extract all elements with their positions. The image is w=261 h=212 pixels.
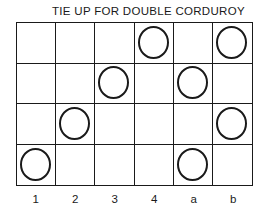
grid-cell [213,64,252,105]
grid-cell [56,64,95,105]
diagram-title: TIE UP FOR DOUBLE CORDUROY [52,5,245,17]
circle-icon [20,148,51,181]
column-labels: 1234ab [16,193,253,205]
grid-cell [56,145,95,186]
grid-cell [95,64,134,105]
grid-cell [56,23,95,64]
tie-up-grid [16,22,253,186]
column-label: 2 [56,193,96,205]
column-label: 1 [16,193,56,205]
grid-cell [95,104,134,145]
column-label: a [174,193,214,205]
grid-cell [174,104,213,145]
grid-cell [213,145,252,186]
grid-cell [174,23,213,64]
circle-icon [138,26,169,59]
grid-cell [135,104,174,145]
grid-cell [17,145,56,186]
column-label: 4 [135,193,175,205]
grid-cell [17,104,56,145]
circle-icon [216,26,247,59]
grid-cell [213,23,252,64]
circle-icon [59,107,90,140]
column-label: b [214,193,254,205]
grid-cell [95,23,134,64]
grid-cell [135,64,174,105]
grid-cell [135,145,174,186]
circle-icon [216,107,247,140]
circle-icon [98,66,129,99]
grid-cell [17,23,56,64]
grid-cell [174,145,213,186]
circle-icon [177,148,208,181]
column-label: 3 [95,193,135,205]
grid-cell [213,104,252,145]
grid-cell [174,64,213,105]
grid-cell [135,23,174,64]
grid-cell [56,104,95,145]
circle-icon [177,66,208,99]
grid-cell [95,145,134,186]
grid-cell [17,64,56,105]
